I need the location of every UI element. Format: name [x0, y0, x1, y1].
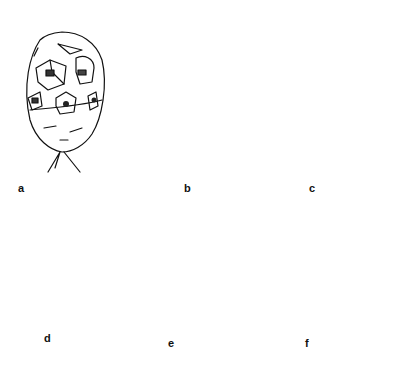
- panel-label-e: e: [168, 338, 174, 349]
- panel-a-gall-illustration: [27, 32, 105, 172]
- panel-label-d: d: [44, 333, 51, 344]
- panel-label-c: c: [309, 183, 315, 194]
- figure-canvas: [0, 0, 409, 368]
- panel-label-a: a: [18, 183, 24, 194]
- panel-label-b: b: [184, 183, 191, 194]
- panel-label-f: f: [305, 338, 309, 349]
